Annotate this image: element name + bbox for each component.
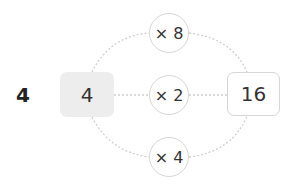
input-value-box: 4 [60,72,114,117]
output-value: 16 [241,82,266,106]
operation-label: × 4 [155,148,184,167]
operation-times-2[interactable]: × 2 [149,75,189,115]
output-value-box: 16 [227,72,280,116]
operation-times-4[interactable]: × 4 [149,137,189,177]
input-value: 4 [81,83,94,107]
operation-times-8[interactable]: × 8 [149,13,189,53]
operation-label: × 8 [155,24,184,43]
operation-label: × 2 [155,86,184,105]
row-label: 4 [12,80,34,110]
